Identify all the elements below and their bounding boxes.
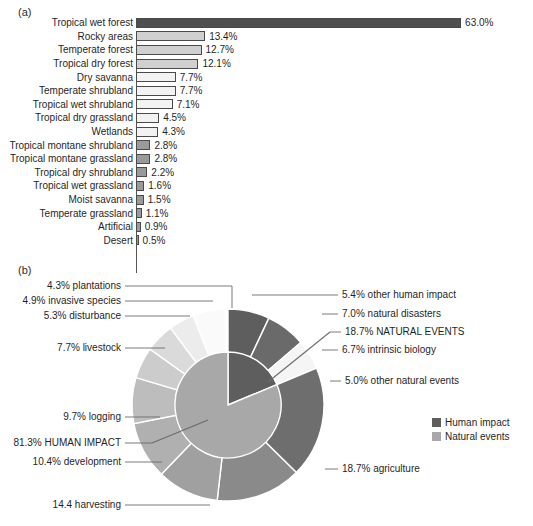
bar-value-label: 12.7% bbox=[206, 44, 234, 55]
bar-track: 2.8% bbox=[136, 152, 533, 166]
pie-label-natural-events: 18.7% NATURAL EVENTS bbox=[345, 326, 464, 337]
bar-category-label: Tropical wet forest bbox=[0, 17, 136, 28]
bar-value-label: 7.1% bbox=[177, 99, 200, 110]
legend-entry: Natural events bbox=[432, 430, 509, 443]
bar-rect bbox=[136, 72, 176, 82]
bar-row: Temperate shrubland7.7% bbox=[0, 84, 533, 98]
bar-row: Tropical dry forest12.1% bbox=[0, 57, 533, 71]
bar-track: 7.1% bbox=[136, 98, 533, 112]
bar-value-label: 1.5% bbox=[148, 194, 171, 205]
bar-category-label: Rocky areas bbox=[0, 31, 136, 42]
bar-track: 7.7% bbox=[136, 70, 533, 84]
bar-value-label: 1.1% bbox=[146, 208, 169, 219]
bar-track: 2.2% bbox=[136, 166, 533, 180]
bar-rect bbox=[136, 195, 144, 205]
bar-rect bbox=[136, 181, 144, 191]
bar-track: 1.6% bbox=[136, 179, 533, 193]
bar-row: Tropical dry grassland4.5% bbox=[0, 111, 533, 125]
bar-row: Tropical wet shrubland7.1% bbox=[0, 98, 533, 112]
bar-row: Wetlands4.3% bbox=[0, 125, 533, 139]
bar-row: Temperate grassland1.1% bbox=[0, 206, 533, 220]
bar-value-label: 2.2% bbox=[151, 167, 174, 178]
bar-row: Artificial0.9% bbox=[0, 220, 533, 234]
habitat-bar-chart: Tropical wet forest63.0%Rocky areas13.4%… bbox=[0, 16, 533, 260]
pie-label-harvesting: 14.4 harvesting bbox=[0, 499, 121, 510]
bar-row: Tropical wet grassland1.6% bbox=[0, 179, 533, 193]
bar-value-label: 63.0% bbox=[465, 17, 493, 28]
bar-category-label: Artificial bbox=[0, 221, 136, 232]
bar-rect bbox=[136, 154, 150, 164]
bar-category-label: Tropical dry grassland bbox=[0, 112, 136, 123]
legend-swatch-icon bbox=[432, 432, 441, 441]
bar-track: 12.7% bbox=[136, 43, 533, 57]
pie-label-other-human-impact: 5.4% other human impact bbox=[342, 289, 456, 300]
bar-row: Tropical dry shrubland2.2% bbox=[0, 166, 533, 180]
bar-value-label: 2.8% bbox=[154, 140, 177, 151]
bar-value-label: 4.3% bbox=[162, 126, 185, 137]
bar-track: 1.5% bbox=[136, 193, 533, 207]
legend-swatch-icon bbox=[432, 418, 441, 427]
bar-category-label: Tropical montane shrubland bbox=[0, 140, 136, 151]
pie-label-livestock: 7.7% livestock bbox=[0, 342, 121, 353]
bar-value-label: 7.7% bbox=[180, 72, 203, 83]
bar-rect bbox=[136, 31, 205, 41]
bar-value-label: 12.1% bbox=[202, 58, 230, 69]
bar-rect bbox=[136, 235, 139, 245]
bar-track: 1.1% bbox=[136, 206, 533, 220]
legend-label: Natural events bbox=[445, 430, 509, 443]
bar-track: 13.4% bbox=[136, 30, 533, 44]
legend-entry: Human impact bbox=[432, 416, 509, 429]
bar-category-label: Tropical dry shrubland bbox=[0, 167, 136, 178]
bar-track: 2.8% bbox=[136, 138, 533, 152]
bar-category-label: Tropical wet shrubland bbox=[0, 99, 136, 110]
bar-row: Desert0.5% bbox=[0, 234, 533, 248]
bar-row: Tropical montane grassland2.8% bbox=[0, 152, 533, 166]
legend-label: Human impact bbox=[445, 416, 509, 429]
bar-track: 12.1% bbox=[136, 57, 533, 71]
pie-label-natural-disasters: 7.0% natural disasters bbox=[342, 308, 441, 319]
bar-row: Moist savanna1.5% bbox=[0, 193, 533, 207]
bar-row: Dry savanna7.7% bbox=[0, 70, 533, 84]
bar-rect bbox=[136, 113, 159, 123]
threat-cause-pie-chart: 4.3% plantations4.9% invasive species5.3… bbox=[0, 262, 533, 526]
pie-label-logging: 9.7% logging bbox=[0, 411, 121, 422]
bar-value-label: 1.6% bbox=[148, 180, 171, 191]
bar-category-label: Tropical wet grassland bbox=[0, 180, 136, 191]
bar-category-label: Desert bbox=[0, 235, 136, 246]
bar-value-label: 4.5% bbox=[163, 112, 186, 123]
bar-row: Tropical wet forest63.0% bbox=[0, 16, 533, 30]
bar-row: Tropical montane shrubland2.8% bbox=[0, 138, 533, 152]
pie-label-agriculture: 18.7% agriculture bbox=[342, 463, 420, 474]
bar-rect bbox=[136, 127, 158, 137]
bar-track: 0.9% bbox=[136, 220, 533, 234]
bar-track: 0.5% bbox=[136, 234, 533, 248]
bar-track: 4.3% bbox=[136, 125, 533, 139]
pie-label-development: 10.4% development bbox=[0, 456, 121, 467]
bar-category-label: Dry savanna bbox=[0, 72, 136, 83]
bar-category-label: Tropical dry forest bbox=[0, 58, 136, 69]
bar-category-label: Temperate forest bbox=[0, 44, 136, 55]
bar-value-label: 13.4% bbox=[209, 31, 237, 42]
bar-rect bbox=[136, 59, 198, 69]
pie-label-human-impact: 81.3% HUMAN IMPACT bbox=[0, 437, 121, 448]
bar-value-label: 0.5% bbox=[143, 235, 166, 246]
pie-label-plantations: 4.3% plantations bbox=[0, 280, 121, 291]
bar-chart-rows: Tropical wet forest63.0%Rocky areas13.4%… bbox=[0, 16, 533, 247]
bar-rect bbox=[136, 222, 141, 232]
bar-category-label: Temperate grassland bbox=[0, 208, 136, 219]
bar-category-label: Temperate shrubland bbox=[0, 85, 136, 96]
bar-rect bbox=[136, 86, 176, 96]
bar-rect bbox=[136, 18, 461, 28]
bar-track: 4.5% bbox=[136, 111, 533, 125]
bar-row: Rocky areas13.4% bbox=[0, 30, 533, 44]
pie-label-disturbance: 5.3% disturbance bbox=[0, 310, 121, 321]
bar-row: Temperate forest12.7% bbox=[0, 43, 533, 57]
bar-value-label: 7.7% bbox=[180, 85, 203, 96]
bar-category-label: Wetlands bbox=[0, 126, 136, 137]
bar-value-label: 0.9% bbox=[145, 221, 168, 232]
pie-label-other-natural-events: 5.0% other natural events bbox=[345, 375, 459, 386]
pie-label-invasive-species: 4.9% invasive species bbox=[0, 295, 121, 306]
bar-rect bbox=[136, 208, 142, 218]
bar-category-label: Tropical montane grassland bbox=[0, 153, 136, 164]
pie-label-intrinsic-biology: 6.7% intrinsic biology bbox=[342, 344, 436, 355]
